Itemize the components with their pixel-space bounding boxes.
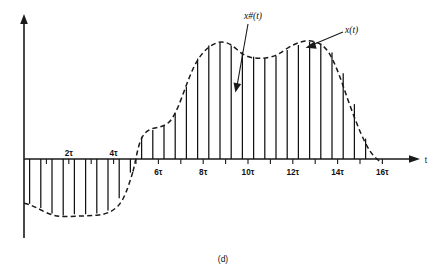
label-sampled-signal: x#(t) [243, 11, 262, 22]
tick-label-6tau: 6τ [154, 168, 163, 177]
figure-container: t [0, 0, 446, 280]
tick-label-2tau: 2τ [65, 149, 74, 158]
arrowhead-sampled-signal [234, 83, 242, 93]
x-axis-label: t [425, 156, 428, 165]
arrowhead-continuous-signal [306, 41, 317, 49]
x-axis-arrowhead [409, 155, 420, 163]
tick-label-16tau: 16τ [376, 168, 389, 177]
signal-sampling-diagram: t [0, 0, 446, 280]
figure-caption: (d) [218, 254, 229, 264]
annotation-sampled-signal: x#(t) [234, 11, 262, 93]
tick-label-14tau: 14τ [331, 168, 344, 177]
label-continuous-signal: x(t) [344, 25, 358, 36]
envelope-positive-lobe [133, 41, 382, 172]
tick-label-4tau: 4τ [109, 149, 118, 158]
tick-label-10tau: 10τ [242, 168, 255, 177]
annotation-continuous-signal: x(t) [306, 25, 359, 49]
tick-label-8tau: 8τ [199, 168, 208, 177]
impulse-train [30, 42, 366, 216]
y-axis-arrowhead [20, 14, 28, 24]
tick-label-12tau: 12τ [286, 168, 299, 177]
x-axis [24, 155, 420, 163]
